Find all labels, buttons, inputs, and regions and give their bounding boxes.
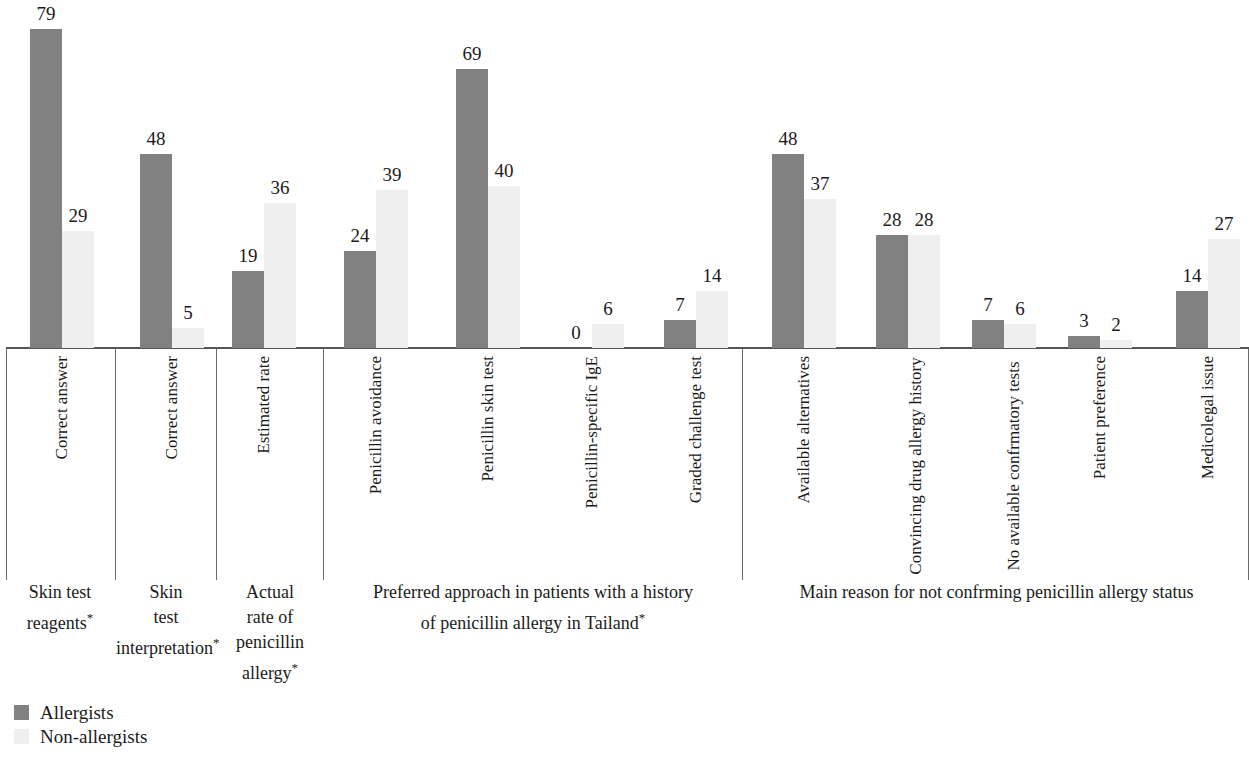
bar-allergists bbox=[456, 69, 488, 348]
bar-value-non-allergists: 2 bbox=[1090, 315, 1142, 334]
group-separator bbox=[216, 349, 217, 580]
bar-allergists bbox=[972, 320, 1004, 348]
bar-value-non-allergists: 29 bbox=[52, 206, 104, 225]
group-caption-line: interpretation bbox=[116, 638, 213, 658]
group-caption-main-reason: Main reason for not confrming penicillin… bbox=[744, 580, 1249, 605]
bar-value-non-allergists: 6 bbox=[994, 299, 1046, 318]
bar-value-allergists: 48 bbox=[762, 129, 814, 148]
legend-label-non-allergists: Non-allergists bbox=[40, 726, 147, 747]
group-caption-line: Actual bbox=[246, 582, 294, 602]
category-label: Medicolegal issue bbox=[1198, 356, 1217, 479]
category-label: Penicillin avoidance bbox=[366, 356, 385, 494]
bar-non-allergists bbox=[264, 203, 296, 348]
bar-allergists bbox=[232, 271, 264, 348]
legend-swatch-non-allergists-icon bbox=[14, 729, 29, 744]
category-label: No available confrmatory tests bbox=[1004, 356, 1023, 576]
legend-label-allergists: Allergists bbox=[40, 702, 114, 723]
bar-value-non-allergists: 39 bbox=[366, 165, 418, 184]
bar-value-non-allergists: 36 bbox=[254, 178, 306, 197]
bar-value-allergists: 0 bbox=[550, 323, 602, 342]
footnote-star: * bbox=[639, 610, 646, 625]
category-label: Available alternatives bbox=[794, 356, 813, 503]
group-separator bbox=[323, 349, 324, 580]
group-caption-line: test bbox=[154, 607, 179, 627]
bar-allergists bbox=[664, 320, 696, 348]
group-caption-line: of penicillin allergy in Tailand bbox=[421, 613, 639, 633]
footnote-star: * bbox=[87, 610, 94, 625]
bar-allergists bbox=[1176, 291, 1208, 348]
bar-value-allergists: 79 bbox=[20, 4, 72, 23]
bar-non-allergists bbox=[488, 186, 520, 348]
bar-allergists bbox=[1068, 336, 1100, 348]
bar-non-allergists bbox=[172, 328, 204, 348]
bar-non-allergists bbox=[376, 190, 408, 348]
category-label: Convincing drug allergy history bbox=[906, 356, 925, 576]
legend-item-non-allergists: Non-allergists bbox=[14, 724, 147, 748]
plot-area: 7929485193624396940067144837282876321427 bbox=[0, 0, 1249, 348]
group-caption-line: allergy bbox=[242, 663, 292, 683]
group-caption-band: Skin test reagents* Skin test interpreta… bbox=[0, 580, 1249, 690]
group-caption-line: penicillin bbox=[236, 632, 304, 652]
bar-value-non-allergists: 28 bbox=[898, 210, 950, 229]
bar-allergists bbox=[344, 251, 376, 348]
group-caption-line: rate of bbox=[247, 607, 293, 627]
category-label: Correct answer bbox=[162, 356, 181, 459]
bar-non-allergists bbox=[1004, 324, 1036, 348]
group-separator bbox=[115, 349, 116, 580]
footnote-star: * bbox=[292, 660, 299, 675]
category-label-band: Correct answerCorrect answerEstimated ra… bbox=[0, 348, 1249, 580]
category-label: Correct answer bbox=[52, 356, 71, 459]
category-label: Patient preference bbox=[1090, 356, 1109, 479]
bar-non-allergists bbox=[62, 231, 94, 348]
group-caption-line: Skin bbox=[149, 582, 182, 602]
legend: Allergists Non-allergists bbox=[14, 700, 147, 748]
legend-item-allergists: Allergists bbox=[14, 700, 147, 724]
bar-chart: 7929485193624396940067144837282876321427… bbox=[0, 0, 1249, 767]
bar-allergists bbox=[30, 29, 62, 348]
group-caption-line: Preferred approach in patients with a hi… bbox=[373, 582, 693, 602]
group-caption-line: reagents bbox=[27, 613, 87, 633]
bar-value-allergists: 48 bbox=[130, 129, 182, 148]
bar-non-allergists bbox=[804, 199, 836, 348]
bar-value-allergists: 69 bbox=[446, 44, 498, 63]
group-caption-skin-test-interpretation: Skin test interpretation* bbox=[116, 580, 216, 661]
bar-value-allergists: 19 bbox=[222, 246, 274, 265]
legend-swatch-allergists-icon bbox=[14, 705, 29, 720]
bar-value-non-allergists: 14 bbox=[686, 266, 738, 285]
group-caption-skin-test-reagents: Skin test reagents* bbox=[6, 580, 114, 636]
group-separator bbox=[742, 349, 743, 580]
category-label: Graded challenge test bbox=[686, 356, 705, 503]
bar-value-allergists: 14 bbox=[1166, 266, 1218, 285]
bar-value-allergists: 24 bbox=[334, 226, 386, 245]
bar-value-allergists: 7 bbox=[654, 295, 706, 314]
group-separator bbox=[6, 349, 7, 580]
category-label: Penicillin skin test bbox=[478, 356, 497, 482]
group-caption-actual-rate: Actual rate of penicillin allergy* bbox=[218, 580, 322, 686]
category-label: Estimated rate bbox=[254, 356, 273, 454]
bar-value-non-allergists: 27 bbox=[1198, 214, 1249, 233]
bar-allergists bbox=[876, 235, 908, 348]
bar-value-non-allergists: 37 bbox=[794, 174, 846, 193]
bar-non-allergists bbox=[908, 235, 940, 348]
bar-non-allergists bbox=[1100, 340, 1132, 348]
bar-value-non-allergists: 40 bbox=[478, 161, 530, 180]
group-caption-line: Skin test bbox=[29, 582, 92, 602]
bar-non-allergists bbox=[1208, 239, 1240, 348]
category-label: Penicillin-specific IgE bbox=[582, 356, 601, 508]
group-caption-line: Main reason for not confrming penicillin… bbox=[799, 582, 1193, 602]
bar-value-non-allergists: 5 bbox=[162, 303, 214, 322]
bar-value-non-allergists: 6 bbox=[582, 299, 634, 318]
group-caption-preferred-approach: Preferred approach in patients with a hi… bbox=[326, 580, 740, 636]
